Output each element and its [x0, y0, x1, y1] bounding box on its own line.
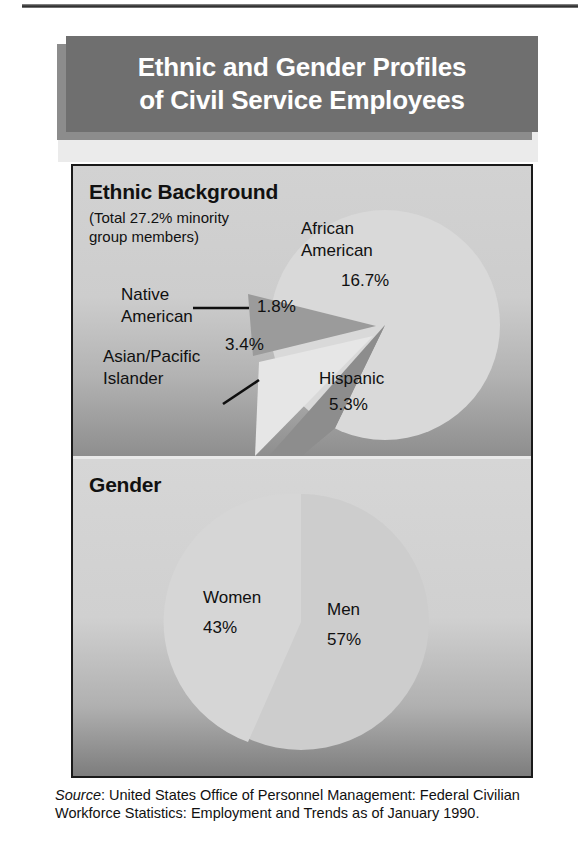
figure-frame: Ethnic Background (Total 27.2% minority … — [71, 164, 533, 778]
title-line-2: of Civil Service Employees — [139, 84, 465, 117]
gender-panel-heading: Gender — [89, 473, 161, 497]
source-note: Source: United States Office of Personne… — [55, 786, 545, 822]
ethnic-subtitle-line-2: group members) — [89, 227, 309, 246]
leader-line-asian-pacific — [223, 380, 259, 404]
value-hispanic: 5.3% — [329, 394, 368, 415]
ethnic-background-panel: Ethnic Background (Total 27.2% minority … — [73, 166, 531, 456]
value-women: 43% — [203, 617, 237, 638]
value-men: 57% — [327, 629, 361, 650]
top-horizontal-rule — [22, 4, 578, 8]
source-text: : United States Office of Personnel Mana… — [55, 787, 520, 821]
source-label: Source — [55, 787, 101, 803]
title-banner: Ethnic and Gender Profiles of Civil Serv… — [66, 36, 538, 132]
ethnic-subtitle-line-1: (Total 27.2% minority — [89, 208, 309, 227]
value-african-american: 16.7% — [341, 270, 389, 291]
ethnic-panel-subtitle: (Total 27.2% minority group members) — [89, 208, 309, 246]
ethnic-panel-heading: Ethnic Background — [89, 180, 278, 204]
label-hispanic: Hispanic — [319, 368, 384, 389]
label-women: Women — [203, 587, 261, 608]
label-native-american-line-1: Native — [121, 284, 169, 305]
value-asian-pacific: 3.4% — [225, 334, 264, 355]
label-african-american-line-2: American — [301, 240, 373, 261]
gender-pie-chart — [73, 459, 531, 776]
label-native-american-line-2: American — [121, 306, 193, 327]
gender-panel: Gender Women 43% Men 57% — [73, 459, 531, 776]
label-african-american-line-1: African — [301, 218, 354, 239]
label-asian-pacific-line-2: Islander — [103, 368, 163, 389]
title-line-1: Ethnic and Gender Profiles — [138, 51, 467, 84]
label-men: Men — [327, 599, 360, 620]
value-native-american: 1.8% — [257, 296, 296, 317]
label-asian-pacific-line-1: Asian/Pacific — [103, 346, 200, 367]
